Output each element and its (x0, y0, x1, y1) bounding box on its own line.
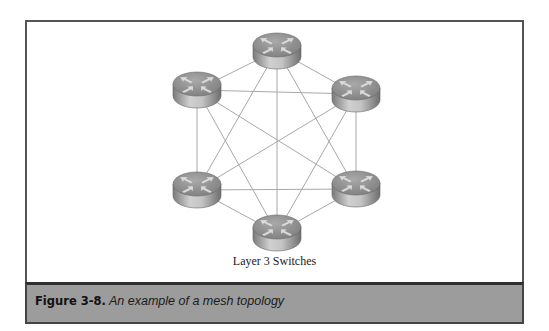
router-icon-top (253, 33, 301, 69)
router-icon-lower-right (332, 171, 380, 207)
router-icon-bottom (253, 215, 301, 251)
figure-caption: Figure 3-8. An example of a mesh topolog… (25, 282, 524, 324)
mesh-edges (197, 50, 356, 233)
figure-number: Figure 3-8. (35, 294, 106, 308)
router-icon-upper-left (173, 72, 221, 108)
router-icon-upper-right (332, 76, 380, 112)
caption-text: An example of a mesh topology (109, 294, 284, 308)
router-icon-lower-left (173, 172, 221, 208)
diagram-label: Layer 3 Switches (0, 254, 549, 269)
